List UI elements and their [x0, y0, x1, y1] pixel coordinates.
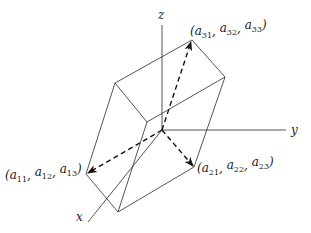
- vector-a3-label: (a31, a32, a33): [190, 18, 267, 40]
- edge: [115, 40, 192, 83]
- edge: [118, 167, 194, 212]
- parallelepiped-edges: [86, 40, 225, 212]
- parallelepiped-diagram: z y x (a31, a32, a33) (a21, a22, a23) (a…: [0, 0, 311, 233]
- z-axis-label: z: [157, 8, 165, 22]
- edge: [192, 40, 225, 77]
- y-axis-label: y: [290, 123, 298, 137]
- vector-a2-label: (a21, a22, a23): [197, 155, 274, 177]
- edge: [86, 174, 118, 212]
- vector-a3-arrow: [162, 42, 191, 130]
- edge: [194, 77, 225, 167]
- vector-a1-arrow: [88, 130, 162, 173]
- vector-a1-label: (a11, a12, a13): [5, 162, 82, 184]
- edge: [118, 122, 147, 212]
- x-axis-label: x: [76, 210, 83, 224]
- vector-a2-arrow: [162, 130, 193, 166]
- edge: [115, 83, 147, 122]
- edge: [147, 77, 225, 122]
